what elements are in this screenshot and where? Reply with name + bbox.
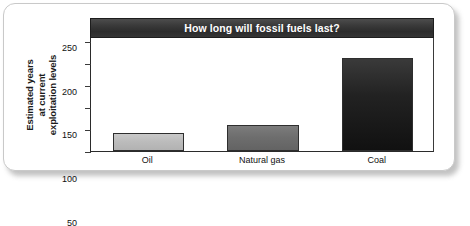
x-label-coal: Coal xyxy=(367,155,386,165)
chart-title-banner: How long will fossil fuels last? xyxy=(90,18,434,38)
plot-frame: 050100150200250 xyxy=(90,38,434,152)
y-tick-100: 100 xyxy=(85,108,91,109)
x-label-natural-gas: Natural gas xyxy=(239,155,285,165)
y-tick-150: 150 xyxy=(85,86,91,87)
x-label-oil: Oil xyxy=(142,155,153,165)
y-tick-label-250: 250 xyxy=(43,43,77,53)
chart-title: How long will fossil fuels last? xyxy=(184,22,339,34)
y-tick-label-150: 150 xyxy=(43,130,77,140)
bar-coal xyxy=(342,58,413,151)
y-tick-200: 200 xyxy=(85,64,91,65)
y-axis-title-line-1: Estimated years xyxy=(24,55,36,135)
bar-natural-gas xyxy=(227,125,298,151)
plot-area: 050100150200250 xyxy=(91,38,433,151)
y-tick-label-200: 200 xyxy=(43,87,77,97)
y-tick-0: 0 xyxy=(85,152,91,153)
y-tick-250: 250 xyxy=(85,42,91,43)
y-tick-label-100: 100 xyxy=(43,174,77,183)
bar-oil xyxy=(113,133,184,151)
y-tick-50: 50 xyxy=(85,130,91,131)
figure-card: Estimated years at current exploitation … xyxy=(3,3,455,171)
